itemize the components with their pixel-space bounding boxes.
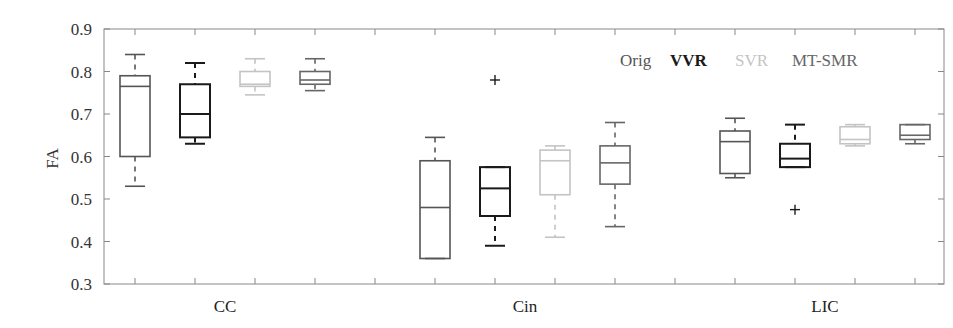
iqr-box (600, 146, 630, 184)
box-mt-smr-cin (600, 123, 630, 227)
iqr-box (120, 76, 150, 157)
iqr-box (180, 84, 210, 137)
iqr-box (480, 167, 510, 216)
box-vvr-lic (780, 125, 810, 215)
box-orig-cc (120, 55, 150, 187)
box-vvr-cc (180, 63, 210, 144)
series-svr (240, 59, 870, 238)
series-orig (120, 55, 750, 259)
y-tick-label: 0.6 (71, 148, 92, 167)
series-vvr (180, 63, 810, 246)
box-svr-cin (540, 146, 570, 237)
y-tick-label: 0.8 (71, 63, 92, 82)
box-vvr-cin (480, 75, 510, 246)
iqr-box (780, 144, 810, 167)
box-svr-lic (840, 125, 870, 146)
legend-item-svr: SVR (735, 51, 769, 70)
y-axis-title: FA (43, 148, 62, 169)
series-mt-smr (300, 59, 930, 227)
y-tick-label: 0.9 (71, 20, 92, 39)
category-label-lic: LIC (811, 297, 838, 316)
box-orig-cin (420, 137, 450, 258)
iqr-box (300, 72, 330, 85)
legend-item-mt-smr: MT-SMR (792, 51, 858, 70)
iqr-box (420, 161, 450, 259)
category-label-cc: CC (214, 297, 237, 316)
box-mt-smr-cc (300, 59, 330, 91)
box-orig-lic (720, 118, 750, 178)
legend-item-vvr: VVR (670, 51, 708, 70)
legend: OrigVVRSVRMT-SMR (620, 51, 858, 70)
legend-item-orig: Orig (620, 51, 652, 70)
y-tick-label: 0.5 (71, 190, 92, 209)
iqr-box (900, 125, 930, 140)
y-tick-label: 0.7 (71, 105, 93, 124)
box-series (120, 55, 930, 259)
iqr-box (540, 150, 570, 195)
y-tick-label: 0.3 (71, 275, 92, 294)
iqr-box (840, 127, 870, 144)
iqr-box (720, 131, 750, 174)
category-label-cin: Cin (513, 297, 538, 316)
boxplot-chart: 0.30.40.50.60.70.80.9FACCCinLIC OrigVVRS… (0, 0, 953, 328)
box-svr-cc (240, 59, 270, 95)
box-mt-smr-lic (900, 125, 930, 144)
y-tick-label: 0.4 (71, 233, 93, 252)
